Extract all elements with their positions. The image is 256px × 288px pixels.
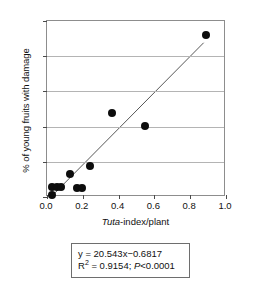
y-axis-title: % of young fruits with damage [20, 26, 31, 196]
y-axis-tick [43, 162, 47, 163]
data-point [48, 191, 56, 199]
rsquared-label: R [78, 260, 85, 271]
rsquared-line: R2 = 0.9154; P<0.0001 [78, 260, 183, 272]
x-axis-tick [154, 195, 155, 199]
rsquared-value: = 0.9154; [89, 260, 134, 271]
x-axis-tick [83, 195, 84, 199]
y-axis-tick [43, 91, 47, 92]
y-axis-tick [43, 127, 47, 128]
x-axis-tick-label: 0.8 [174, 201, 204, 211]
x-axis-tick [226, 195, 227, 199]
x-axis-tick-label: 0.0 [31, 201, 61, 211]
x-axis-tick-label: 0.4 [103, 201, 133, 211]
gridline [47, 162, 224, 163]
x-axis-tick [119, 195, 120, 199]
x-axis-tick [190, 195, 191, 199]
scatter-plot-figure: % of young fruits with damage 048121620 … [0, 0, 256, 288]
regression-line [47, 21, 224, 195]
gridline [47, 91, 224, 92]
regression-equation-box: y = 20.543x−0.6817 R2 = 0.9154; P<0.0001 [71, 243, 190, 278]
gridline [47, 127, 224, 128]
y-axis-tick [43, 56, 47, 57]
x-axis-tick-label: 0.2 [67, 201, 97, 211]
x-axis-title-genus: Tuta [102, 216, 120, 227]
equation-line: y = 20.543x−0.6817 [78, 248, 183, 260]
plot-area: 048121620 [46, 20, 225, 196]
x-axis-title: Tuta-index/plant [46, 216, 225, 227]
gridline [47, 56, 224, 57]
x-axis-tick-label: 1.0 [210, 201, 240, 211]
x-axis-tick-label: 0.6 [138, 201, 168, 211]
plot-inner: 048121620 [47, 21, 224, 195]
p-value: <0.0001 [140, 260, 175, 271]
y-axis-tick [43, 21, 47, 22]
x-axis-title-rest: -index/plant [120, 216, 169, 227]
